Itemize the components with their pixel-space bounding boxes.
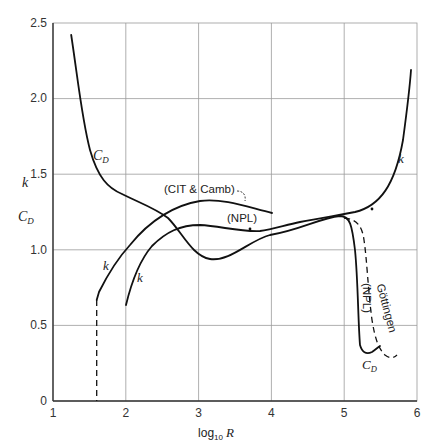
- annotation-cd-bottom: CD: [362, 357, 378, 374]
- annotation-npl-right: (NPL): [361, 283, 373, 313]
- chart: 0 0.5 1.0 1.5 2.0 2.5 1 2 3 4 5 6 log10R…: [0, 0, 437, 446]
- cit-leader-arrow: [237, 191, 245, 201]
- y-tick: 0: [40, 394, 47, 408]
- y-tick: 1.5: [30, 167, 47, 181]
- x-tick: 3: [195, 406, 202, 420]
- x-axis-title: log10R: [198, 425, 234, 442]
- annotation-npl-mid: (NPL): [227, 212, 257, 224]
- x-tick: 5: [341, 406, 348, 420]
- curves: [71, 35, 411, 353]
- annotation-k-left1: k: [103, 258, 109, 273]
- x-tick: 1: [50, 406, 57, 420]
- x-tick: 4: [268, 406, 275, 420]
- y-tick: 1.0: [30, 243, 47, 257]
- x-tick: 6: [414, 406, 421, 420]
- y-tick: 0.5: [30, 318, 47, 332]
- annotation-gottingen: Göttingen: [375, 282, 399, 333]
- annotation-k-left2: k: [137, 270, 143, 285]
- x-tick: 2: [122, 406, 129, 420]
- y-axis-title-cd: CD: [18, 209, 34, 226]
- x-tick-labels: 1 2 3 4 5 6: [50, 406, 421, 420]
- annotation-k-right: k: [398, 151, 404, 166]
- annotation-cit-camb: (CIT & Camb): [164, 183, 235, 195]
- y-axis-title-k: k: [22, 175, 29, 190]
- y-tick-labels: 0 0.5 1.0 1.5 2.0 2.5: [30, 16, 47, 408]
- y-tick: 2.0: [30, 91, 47, 105]
- annotation-cd-top: CD: [93, 148, 109, 165]
- y-tick: 2.5: [30, 16, 47, 30]
